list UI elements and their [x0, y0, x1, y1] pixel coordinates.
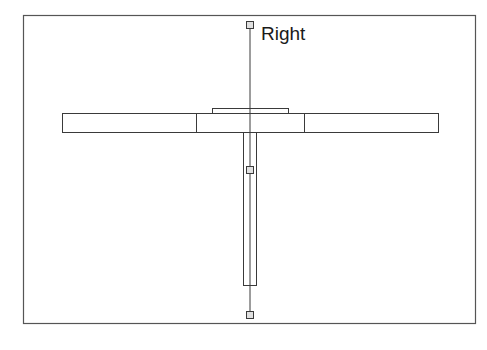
bottom-handle[interactable] — [247, 312, 254, 319]
top-handle[interactable] — [247, 22, 254, 29]
diagram-canvas — [0, 0, 487, 350]
middle-handle[interactable] — [247, 167, 254, 174]
axis-label: Right — [261, 23, 305, 45]
